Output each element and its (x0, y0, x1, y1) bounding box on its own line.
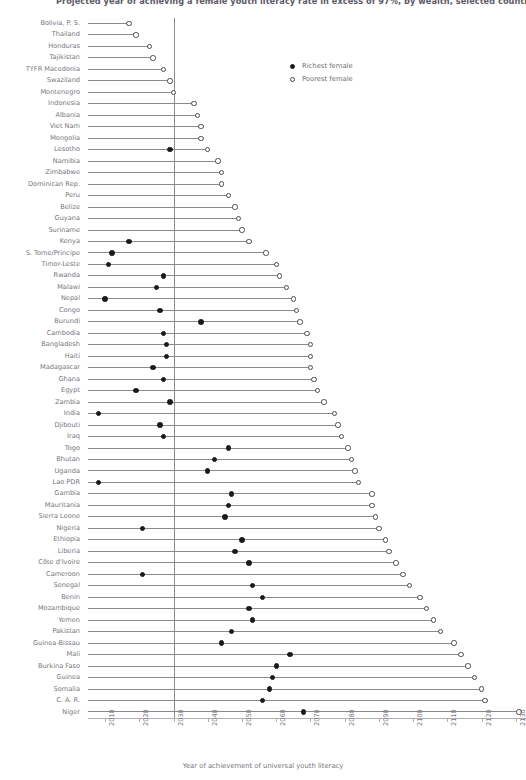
y-axis-label: Gambia (54, 488, 80, 499)
poorest-female-marker (482, 698, 487, 703)
richest-female-marker (161, 434, 166, 439)
richest-female-marker (260, 595, 265, 600)
richest-female-marker (164, 354, 169, 359)
x-axis-tick (105, 718, 106, 722)
chart-row (88, 592, 526, 603)
connector-line (88, 92, 174, 93)
y-axis-label: Guyana (55, 213, 80, 224)
chart-row (88, 362, 526, 373)
chart-row (88, 236, 526, 247)
poorest-female-marker (304, 331, 309, 336)
y-axis-labels: Bolivia, P. S.ThailandHondurasTajikistan… (0, 18, 86, 718)
chart-row (88, 626, 526, 637)
x-axis-tick-label: 2070 (313, 709, 321, 726)
chart-row (88, 328, 526, 339)
chart-row (88, 259, 526, 270)
y-axis-label: Rwanda (54, 270, 80, 281)
chart-row (88, 190, 526, 201)
connector-line (88, 516, 375, 517)
y-axis-label: Yemen (58, 615, 80, 626)
poorest-female-marker (297, 319, 302, 324)
filled-circle-icon (290, 64, 295, 69)
richest-female-marker (267, 686, 272, 691)
poorest-female-marker (195, 113, 200, 118)
richest-female-marker (154, 285, 159, 290)
connector-line (88, 528, 379, 529)
richest-female-marker (232, 549, 237, 554)
connector-line (88, 344, 310, 345)
connector-line (88, 470, 355, 471)
connector-line (88, 321, 300, 322)
y-axis-label: Guinea (57, 672, 80, 683)
y-axis-label: TYFR Macedonia (26, 64, 80, 75)
chart-row (88, 523, 526, 534)
poorest-female-marker (465, 663, 470, 668)
chart-row (88, 695, 526, 706)
y-axis-label: Indonesia (48, 98, 80, 109)
poorest-female-marker (219, 181, 224, 186)
connector-line (88, 689, 482, 690)
chart-row (88, 431, 526, 442)
connector-line (88, 252, 266, 253)
y-axis-label: Cameroon (46, 569, 80, 580)
y-axis-label: Somalia (54, 684, 80, 695)
poorest-female-marker (479, 686, 484, 691)
connector-line (88, 620, 434, 621)
connector-line (88, 402, 324, 403)
poorest-female-marker (458, 652, 463, 657)
chart-row (88, 477, 526, 488)
x-axis-tick-label: 2120 (485, 709, 493, 726)
poorest-female-marker (369, 491, 374, 496)
richest-female-marker (133, 388, 138, 393)
y-axis-label: Cambodia (47, 328, 80, 339)
chart-row (88, 270, 526, 281)
connector-line (88, 367, 310, 368)
poorest-female-marker (339, 434, 344, 439)
richest-female-marker (222, 514, 227, 519)
connector-line (88, 115, 198, 116)
richest-female-marker (161, 273, 166, 278)
connector-line (88, 207, 235, 208)
y-axis-label: Nepal (61, 293, 80, 304)
chart-row (88, 41, 526, 52)
y-axis-label: Honduras (48, 41, 80, 52)
connector-line (88, 126, 201, 127)
y-axis-label: Burkina Faso (38, 661, 80, 672)
poorest-female-marker (407, 583, 412, 588)
connector-line (88, 482, 358, 483)
chart-row (88, 374, 526, 385)
connector-line (88, 631, 440, 632)
chart-row (88, 98, 526, 109)
chart-row (88, 144, 526, 155)
poorest-female-marker (431, 617, 436, 622)
poorest-female-marker (147, 44, 152, 49)
chart-row (88, 282, 526, 293)
x-axis-tick (276, 718, 277, 722)
chart-row (88, 397, 526, 408)
poorest-female-marker (246, 239, 251, 244)
connector-line (88, 161, 218, 162)
connector-line (88, 597, 420, 598)
richest-female-marker (226, 445, 231, 450)
poorest-female-marker (198, 136, 203, 141)
x-axis-tick (310, 718, 311, 722)
chart-row (88, 339, 526, 350)
legend-item-poorest-female: Poorest female (288, 73, 353, 86)
x-axis-tick (379, 718, 380, 722)
richest-female-marker (157, 308, 162, 313)
connector-line (88, 413, 334, 414)
poorest-female-marker (373, 514, 378, 519)
connector-line (88, 184, 221, 185)
connector-line (88, 138, 201, 139)
richest-female-marker (161, 377, 166, 382)
y-axis-label: Liberia (58, 546, 80, 557)
y-axis-label: Dominican Rep. (28, 179, 80, 190)
y-axis-label: Tajikistan (49, 52, 80, 63)
connector-line (88, 34, 136, 35)
chart-row (88, 202, 526, 213)
poorest-female-marker (236, 216, 241, 221)
connector-line (88, 69, 163, 70)
legend-item-richest-female: Richest female (288, 60, 353, 73)
poorest-female-marker (393, 560, 398, 565)
poorest-female-marker (383, 537, 388, 542)
